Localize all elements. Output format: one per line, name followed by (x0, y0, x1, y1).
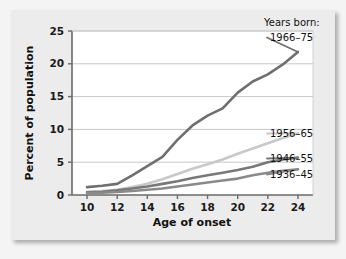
figure-card: 0510152025 1012141618202224 Age of onset… (11, 10, 335, 240)
x-tick-label-12: 12 (110, 201, 125, 213)
y-axis-ticks: 0510152025 (49, 25, 72, 201)
x-axis-title: Age of onset (153, 216, 232, 229)
y-tick-label-5: 5 (57, 156, 64, 168)
y-tick-label-10: 10 (49, 123, 64, 135)
series-label-1966-75: 1966–75 (270, 32, 313, 43)
x-tick-label-18: 18 (200, 201, 215, 213)
y-tick-label-15: 15 (49, 90, 64, 102)
y-tick-label-20: 20 (49, 57, 64, 69)
y-tick-label-0: 0 (57, 189, 64, 201)
x-axis-ticks: 1012141618202224 (80, 195, 306, 213)
legend-title: Years born: (263, 17, 320, 28)
x-tick-label-14: 14 (140, 201, 155, 213)
y-axis-title: Percent of population (23, 46, 36, 181)
x-tick-label-24: 24 (291, 201, 306, 213)
x-tick-label-10: 10 (80, 201, 95, 213)
x-tick-label-20: 20 (230, 201, 245, 213)
series-label-1936-45: 1936–45 (270, 169, 313, 180)
x-tick-label-16: 16 (170, 201, 185, 213)
figure-root: 0510152025 1012141618202224 Age of onset… (0, 0, 346, 259)
y-tick-label-25: 25 (49, 25, 64, 37)
x-tick-label-22: 22 (261, 201, 276, 213)
series-label-1946-55: 1946–55 (270, 153, 313, 164)
series-label-1956-65: 1956–65 (270, 128, 313, 139)
line-chart: 0510152025 1012141618202224 Age of onset… (11, 10, 335, 240)
